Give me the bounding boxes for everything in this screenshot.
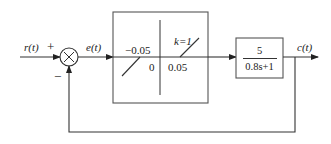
left-threshold-label: −0.05 (125, 45, 150, 56)
plus-sign: + (47, 40, 54, 53)
transfer-function: 5 0.8s+1 (236, 38, 283, 78)
slope-label: k=1 (174, 36, 192, 47)
dead-zone-block (113, 12, 208, 103)
input-signal-label: r(t) (24, 42, 39, 53)
error-signal-label: e(t) (86, 42, 101, 53)
tf-denominator: 0.8s+1 (245, 59, 273, 72)
tf-numerator: 5 (257, 45, 262, 58)
output-signal-label: c(t) (297, 42, 312, 53)
origin-label: 0 (149, 62, 155, 73)
right-threshold-label: 0.05 (168, 62, 187, 73)
minus-sign: − (54, 70, 61, 83)
summing-junction (60, 48, 78, 66)
